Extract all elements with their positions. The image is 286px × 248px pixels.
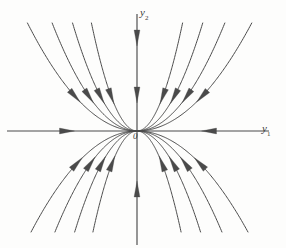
y-axis-label: y2	[140, 7, 148, 21]
trajectory-arrow	[106, 88, 114, 104]
trajectory-arrow	[95, 156, 105, 172]
x-axis-arrow-1	[60, 128, 75, 134]
trajectory-arrow	[106, 156, 115, 172]
trajectory-curve	[137, 23, 203, 131]
trajectory-curve	[137, 23, 183, 131]
x-axis-label-subscript: 1	[267, 130, 271, 138]
trajectory-arrow	[160, 88, 168, 104]
y-axis-arrow-3	[134, 181, 140, 197]
trajectory-arrow	[159, 156, 168, 172]
trajectory-arrow	[170, 88, 180, 104]
trajectory-curves-group	[27, 23, 251, 232]
x-axis-arrow-2	[202, 128, 217, 134]
origin-label: 0	[133, 132, 138, 141]
trajectory-arrow	[180, 157, 192, 172]
trajectory-arrow	[83, 157, 95, 172]
phase-portrait-figure: y2 y1 0	[0, 0, 286, 248]
y-axis-arrow-1	[134, 30, 140, 46]
trajectory-curve	[27, 23, 137, 131]
trajectory-arrow	[94, 88, 104, 104]
axes-group	[7, 14, 269, 245]
trajectory-curve	[31, 131, 137, 232]
trajectory-arrow	[194, 158, 207, 172]
trajectory-arrow	[197, 88, 210, 102]
x-axis-label: y1	[262, 123, 270, 137]
trajectory-curve	[93, 131, 137, 232]
trajectory-curve	[137, 131, 181, 232]
trajectory-arrow	[82, 88, 94, 103]
trajectory-arrow	[182, 88, 194, 103]
trajectory-curve	[137, 131, 201, 232]
trajectory-curve	[91, 23, 137, 131]
trajectory-arrow	[69, 158, 82, 172]
phase-portrait-canvas	[0, 0, 286, 248]
y-axis-arrow-2	[134, 87, 140, 103]
trajectory-arrow	[67, 88, 80, 102]
y-axis-label-subscript: 2	[145, 14, 149, 22]
trajectory-arrow	[169, 156, 179, 171]
